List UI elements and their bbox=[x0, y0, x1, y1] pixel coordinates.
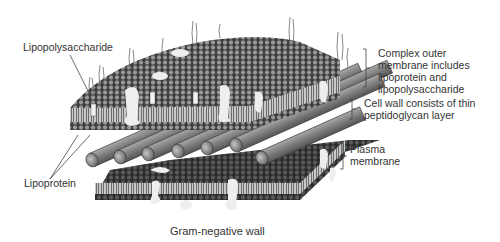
label-outer-membrane: Complex outer membrane includes lipoprot… bbox=[378, 47, 470, 95]
label-lipoprotein: Lipoprotein bbox=[24, 177, 76, 189]
label-lipopolysaccharide: Lipopolysaccharide bbox=[23, 41, 113, 53]
label-line: membrane bbox=[350, 155, 400, 167]
figure-caption: Gram-negative wall bbox=[170, 225, 265, 237]
label-cell-wall: Cell wall consists of thin peptidoglycan… bbox=[364, 97, 475, 121]
label-line: lipopolysaccharide bbox=[378, 83, 470, 95]
label-line: peptidoglycan layer bbox=[364, 109, 475, 121]
label-line: Cell wall consists of thin bbox=[364, 97, 475, 109]
label-line: Plasma bbox=[350, 143, 400, 155]
label-plasma-membrane: Plasma membrane bbox=[350, 143, 400, 167]
label-line: lipoprotein and bbox=[378, 71, 470, 83]
label-line: membrane includes bbox=[378, 59, 470, 71]
label-line: Complex outer bbox=[378, 47, 470, 59]
gram-negative-wall-illustration bbox=[0, 0, 500, 242]
